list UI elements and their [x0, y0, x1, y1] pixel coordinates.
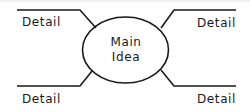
detail-label-top-right: Detail — [197, 16, 236, 30]
branch-line-bottom-right — [161, 70, 236, 86]
main-idea-text: Main Idea — [96, 35, 156, 65]
main-idea-line-2: Idea — [96, 50, 156, 65]
detail-label-bottom-right: Detail — [197, 92, 236, 106]
detail-label-bottom-left: Detail — [22, 92, 61, 106]
detail-label-top-left: Detail — [22, 15, 61, 29]
main-idea-line-1: Main — [96, 35, 156, 50]
branch-line-bottom-left — [17, 71, 92, 86]
